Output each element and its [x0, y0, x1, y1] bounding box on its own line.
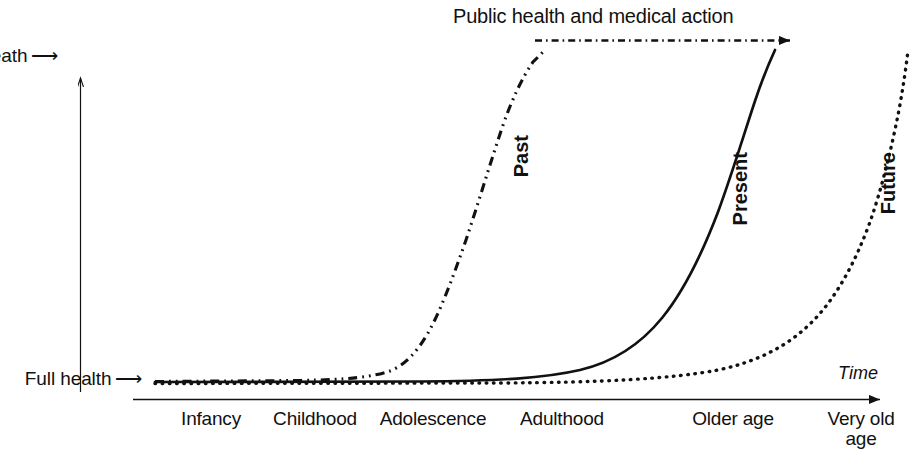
- curve-label-past: Past: [511, 135, 532, 177]
- health-trajectory-figure: Public health and medical action Death ⟶…: [0, 0, 918, 471]
- stage-label-very-old-age: Very old age: [827, 409, 894, 449]
- curve-past: [155, 50, 545, 382]
- curve-future: [155, 50, 908, 384]
- x-axis-time-label: Time: [838, 364, 878, 383]
- curve-present: [155, 50, 775, 382]
- stage-label-very-old-age-line2: age: [845, 428, 876, 449]
- stage-label-adulthood: Adulthood: [520, 409, 604, 429]
- y-axis-bottom-label: Full health ⟶: [25, 369, 142, 389]
- curve-label-future: Future: [878, 152, 899, 214]
- stage-label-infancy: Infancy: [181, 409, 241, 429]
- figure-canvas: [0, 0, 918, 471]
- stage-label-very-old-age-line1: Very old: [827, 408, 894, 429]
- banner-title: Public health and medical action: [453, 6, 733, 27]
- stage-label-older-age: Older age: [692, 409, 774, 429]
- curve-label-present: Present: [730, 152, 751, 225]
- y-axis-top-label: Death ⟶: [0, 46, 58, 66]
- stage-label-childhood: Childhood: [273, 409, 357, 429]
- stage-label-adolescence: Adolescence: [380, 409, 487, 429]
